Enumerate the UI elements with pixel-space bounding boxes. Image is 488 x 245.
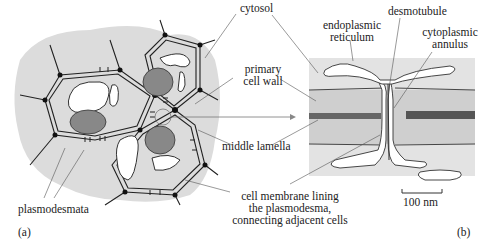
label-cytosol: cytosol: [240, 2, 273, 14]
label-er-line1: endoplasmic: [312, 19, 392, 31]
middle-lamella-left: [309, 113, 381, 119]
panel-b-letter: (b): [457, 226, 470, 238]
label-scale-bar: 100 nm: [403, 196, 438, 208]
label-membrane-line3: connecting adjacent cells: [230, 214, 350, 226]
label-endoplasmic-reticulum: endoplasmic reticulum: [312, 19, 392, 43]
er-bottom-right: [418, 170, 461, 180]
label-primary-cell-wall: primary cell wall: [233, 63, 293, 87]
label-primary-line2: cell wall: [233, 75, 293, 87]
label-membrane-line2: the plasmodesma,: [230, 202, 350, 214]
label-middle-lamella: middle lamella: [222, 140, 291, 152]
label-annulus-line1: cytoplasmic: [414, 26, 486, 38]
scale-bar: [402, 189, 442, 193]
label-er-line2: reticulum: [312, 31, 392, 43]
label-desmotubule: desmotubule: [388, 5, 447, 17]
label-annulus-line2: annulus: [414, 38, 486, 50]
label-primary-line1: primary: [233, 63, 293, 75]
label-membrane-line1: cell membrane lining: [230, 190, 350, 202]
label-plasmodesmata: plasmodesmata: [18, 203, 89, 215]
arrow-head: [290, 114, 296, 120]
label-cytoplasmic-annulus: cytoplasmic annulus: [414, 26, 486, 50]
panel-b-section: [309, 58, 475, 193]
label-cell-membrane: cell membrane lining the plasmodesma, co…: [230, 190, 350, 226]
panel-a-tissue: [14, 20, 296, 205]
middle-lamella-right: [406, 111, 475, 119]
panel-a-letter: (a): [18, 226, 31, 238]
